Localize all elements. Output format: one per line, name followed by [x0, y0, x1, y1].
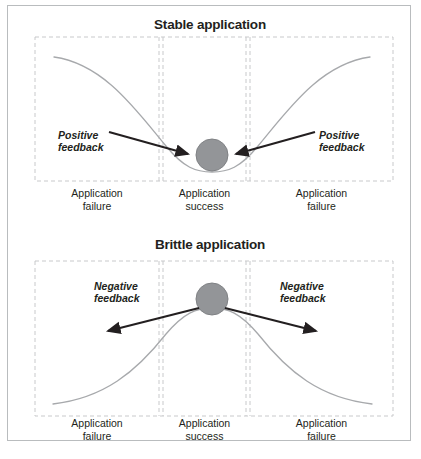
panel-brittle-application: Brittle application [8, 228, 412, 442]
figure-frame: Stable application [7, 5, 411, 441]
arrow-negative-feedback-right [225, 308, 316, 331]
arrow-negative-feedback-left [108, 308, 199, 331]
arrow-positive-feedback-left [109, 132, 188, 154]
label-positive-feedback-right: Positive feedback [319, 130, 365, 153]
state-ball-stable [196, 139, 228, 171]
panel-stable-application: Stable application [8, 6, 412, 228]
zone-label-right-failure-brittle: Application failure [250, 417, 393, 442]
zone-label-left-failure-stable: Application failure [35, 187, 159, 212]
state-ball-brittle [196, 283, 228, 315]
zone-label-left-failure-brittle: Application failure [35, 417, 159, 442]
stability-curve-hill [53, 308, 372, 404]
zone-label-right-failure-stable: Application failure [250, 187, 393, 212]
zone-label-center-success-brittle: Application success [159, 417, 250, 442]
zone-label-center-success-stable: Application success [159, 187, 250, 212]
label-positive-feedback-left: Positive feedback [58, 130, 104, 153]
figure-root: Stable application [0, 0, 421, 459]
arrow-positive-feedback-right [236, 132, 315, 154]
label-negative-feedback-right: Negative feedback [280, 281, 326, 304]
label-negative-feedback-left: Negative feedback [94, 281, 140, 304]
